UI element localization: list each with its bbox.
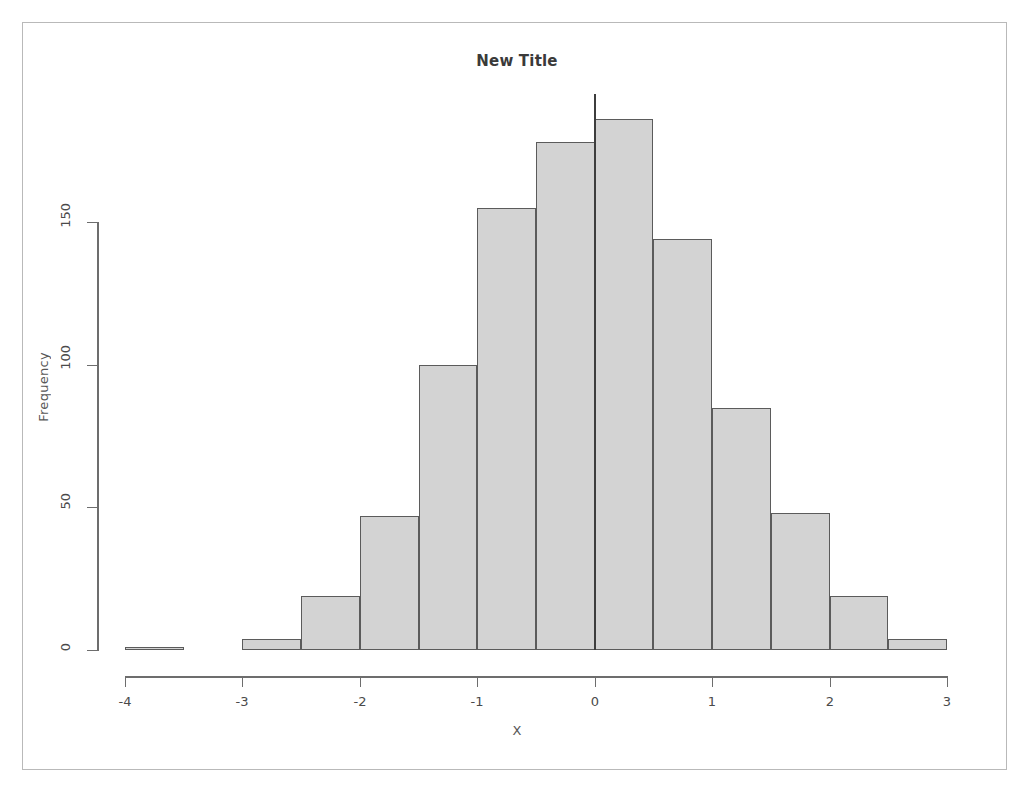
chart-title: New Title [0, 52, 1034, 70]
x-axis-tick-label-0: 0 [575, 694, 615, 709]
histogram-bar [653, 239, 712, 650]
x-axis-tick-2 [830, 676, 831, 687]
x-axis-tick-label--4: -4 [105, 694, 145, 709]
x-axis-tick-label--2: -2 [340, 694, 380, 709]
histogram-bar [360, 516, 419, 650]
histogram-bar [712, 408, 771, 650]
histogram-bar [125, 647, 184, 650]
plot-area [125, 108, 947, 650]
histogram-bar [771, 513, 830, 650]
histogram-bar [536, 142, 595, 650]
y-axis-line [97, 222, 99, 651]
histogram-plot-root: New Title Frequency 0 50 100 150 -4 -3 -… [0, 0, 1034, 794]
histogram-bar [477, 208, 536, 650]
vertical-reference-line [594, 94, 596, 650]
x-axis-tick-label-1: 1 [692, 694, 732, 709]
x-axis-line [125, 676, 948, 678]
x-axis-tick--2 [360, 676, 361, 687]
x-axis-tick--3 [242, 676, 243, 687]
y-axis-title: Frequency [36, 352, 51, 422]
y-axis-tick-label-150: 150 [58, 203, 73, 228]
x-axis-tick-0 [595, 676, 596, 687]
x-axis-tick--1 [477, 676, 478, 687]
histogram-bar [419, 365, 478, 650]
histogram-bar [888, 639, 947, 650]
histogram-bar [301, 596, 360, 650]
histogram-bar [595, 119, 654, 650]
y-axis-tick-label-100: 100 [58, 345, 73, 370]
x-axis-tick-3 [947, 676, 948, 687]
histogram-bar [830, 596, 889, 650]
y-axis-tick-100 [87, 365, 98, 366]
y-axis-tick-0 [87, 650, 98, 651]
x-axis-tick-label-2: 2 [810, 694, 850, 709]
y-axis-tick-label-0: 0 [58, 643, 73, 651]
x-axis-title: X [0, 723, 1034, 738]
y-axis-tick-150 [87, 222, 98, 223]
x-axis-tick-label--3: -3 [222, 694, 262, 709]
y-axis-tick-label-50: 50 [58, 493, 73, 510]
y-axis-tick-50 [87, 507, 98, 508]
x-axis-tick-1 [712, 676, 713, 687]
x-axis-tick--4 [125, 676, 126, 687]
x-axis-tick-label-3: 3 [927, 694, 967, 709]
x-axis-tick-label--1: -1 [457, 694, 497, 709]
histogram-bar [242, 639, 301, 650]
